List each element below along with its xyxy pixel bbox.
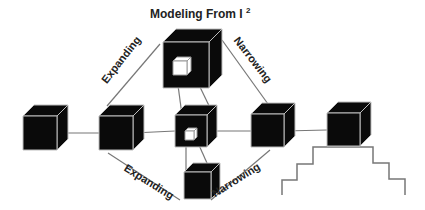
cube-center (175, 105, 217, 147)
cube-front-face (185, 131, 194, 140)
inner-cube (185, 128, 197, 140)
cube-4 (251, 103, 295, 147)
diagram-svg: ExpandingNarrowingExpandingNarrowing (0, 0, 425, 210)
label-expanding-top: Expanding (99, 34, 143, 86)
inner-cube (173, 57, 191, 75)
cube-1 (23, 105, 68, 150)
label-narrowing-top: Narrowing (232, 34, 275, 84)
cube-5 (327, 102, 371, 146)
staircase-outline (282, 147, 405, 195)
label-expanding-bottom: Expanding (122, 162, 176, 202)
cube-front-face (23, 116, 57, 150)
diagram-canvas: Modeling From I 2 ExpandingNarrowingExpa… (0, 0, 425, 210)
cube-front-face (327, 113, 360, 146)
cube-front-face (184, 172, 211, 199)
cube-front-face (173, 61, 187, 75)
cube-front-face (251, 114, 284, 147)
cube-2 (99, 105, 144, 150)
cube-side-face (187, 57, 191, 75)
cube-top (163, 29, 222, 88)
cube-front-face (99, 116, 133, 150)
